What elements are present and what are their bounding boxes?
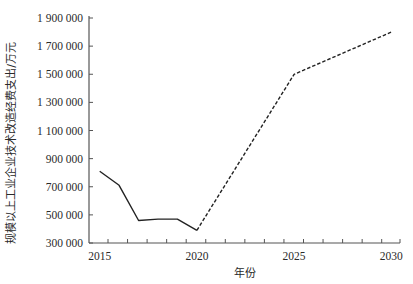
historical-line bbox=[100, 171, 197, 230]
x-tick-label: 2020 bbox=[185, 250, 208, 262]
x-tick-label: 2030 bbox=[380, 250, 403, 262]
y-tick-label: 1 700 000 bbox=[37, 40, 83, 52]
y-axis-title: 规模以上工业企业技术改造经费支出/万元 bbox=[4, 42, 18, 244]
y-axis-ticks: 300 000500 000700 000900 0001 100 0001 3… bbox=[37, 12, 93, 249]
y-tick-label: 300 000 bbox=[46, 237, 84, 249]
y-tick-label: 1 100 000 bbox=[37, 125, 83, 137]
y-tick-label: 500 000 bbox=[46, 209, 84, 221]
y-tick-label: 700 000 bbox=[46, 181, 84, 193]
forecast-line bbox=[197, 32, 391, 230]
y-tick-label: 1 900 000 bbox=[37, 12, 83, 24]
x-tick-label: 2025 bbox=[283, 250, 306, 262]
x-axis-title: 年份 bbox=[234, 266, 256, 280]
plot-series bbox=[100, 32, 392, 230]
y-tick-label: 1 300 000 bbox=[37, 96, 83, 108]
line-chart: 300 000500 000700 000900 0001 100 0001 3… bbox=[0, 0, 413, 284]
y-tick-label: 900 000 bbox=[46, 153, 84, 165]
x-tick-label: 2015 bbox=[88, 250, 111, 262]
y-tick-label: 1 500 000 bbox=[37, 68, 83, 80]
